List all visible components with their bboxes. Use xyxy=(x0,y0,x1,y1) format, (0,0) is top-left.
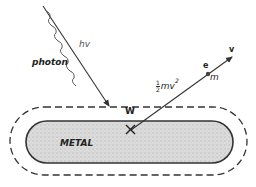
metal-slab xyxy=(26,121,233,163)
mass-label: m xyxy=(210,73,219,82)
photon-energy-label: hv xyxy=(79,40,90,49)
electron-label: e xyxy=(203,62,208,70)
velocity-label: v xyxy=(229,46,234,54)
kinetic-energy-exponent: 2 xyxy=(175,77,179,84)
photoelectric-diagram: photon hv METAL W e m v 1 2 mv2 xyxy=(0,0,256,187)
electron-path xyxy=(131,57,232,130)
kinetic-energy-fraction: 1 2 xyxy=(156,80,160,93)
kinetic-energy-label: 1 2 mv2 xyxy=(156,80,179,93)
kinetic-energy-body: mv xyxy=(161,81,175,91)
work-function-label: W xyxy=(125,107,135,116)
metal-label: METAL xyxy=(60,139,93,148)
photon-label: photon xyxy=(32,58,68,67)
diagram-graphics xyxy=(0,0,256,187)
photon-path xyxy=(43,6,109,106)
